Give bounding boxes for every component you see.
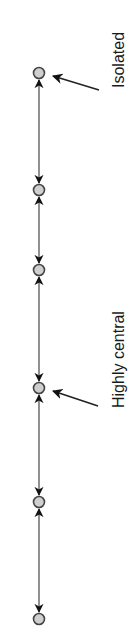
annotations: IsolatedHighly central bbox=[53, 32, 127, 408]
node-n6 bbox=[34, 614, 45, 625]
annotation-arrow-icon bbox=[53, 76, 99, 90]
annotation-arrow-icon bbox=[53, 391, 98, 406]
node-n5 bbox=[34, 497, 45, 508]
node-n1 bbox=[34, 68, 45, 79]
node-n2 bbox=[34, 185, 45, 196]
annotation-label: Isolated bbox=[110, 32, 127, 88]
annotation-label: Highly central bbox=[110, 311, 127, 408]
node-n4 bbox=[34, 383, 45, 394]
node-n3 bbox=[34, 265, 45, 276]
network-diagram: IsolatedHighly central bbox=[0, 0, 132, 633]
